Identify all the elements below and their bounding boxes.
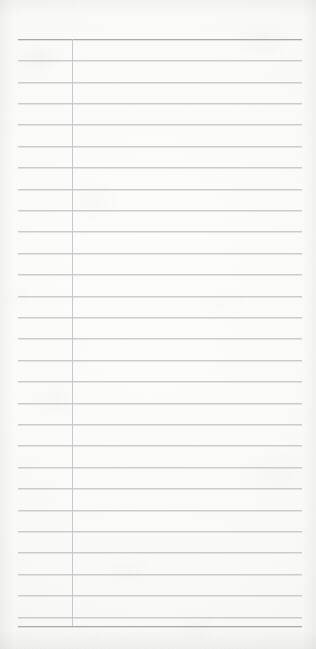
horizontal-rule <box>18 124 302 125</box>
horizontal-rule <box>18 552 302 553</box>
border-rule <box>18 626 302 627</box>
horizontal-rule <box>18 274 302 275</box>
horizontal-rule <box>18 60 302 61</box>
horizontal-rule <box>18 574 302 575</box>
horizontal-rule <box>18 317 302 318</box>
horizontal-rule <box>18 467 302 468</box>
horizontal-rule <box>18 424 302 425</box>
horizontal-rule <box>18 146 302 147</box>
horizontal-rule <box>18 381 302 382</box>
horizontal-rule <box>18 231 302 232</box>
horizontal-rule <box>18 167 302 168</box>
column-divider-rule <box>72 39 73 626</box>
horizontal-rule <box>18 617 302 618</box>
horizontal-rule <box>18 403 302 404</box>
horizontal-rule <box>18 360 302 361</box>
horizontal-rule <box>18 189 302 190</box>
horizontal-rule <box>18 210 302 211</box>
ruling-layer <box>0 0 316 649</box>
scanned-ledger-page <box>0 0 316 649</box>
horizontal-rule <box>18 445 302 446</box>
horizontal-rule <box>18 595 302 596</box>
horizontal-rule <box>18 510 302 511</box>
horizontal-rule <box>18 338 302 339</box>
horizontal-rule <box>18 296 302 297</box>
horizontal-rule <box>18 82 302 83</box>
horizontal-rule <box>18 488 302 489</box>
horizontal-rule <box>18 531 302 532</box>
border-rule <box>18 39 302 40</box>
horizontal-rule <box>18 253 302 254</box>
horizontal-rule <box>18 103 302 104</box>
